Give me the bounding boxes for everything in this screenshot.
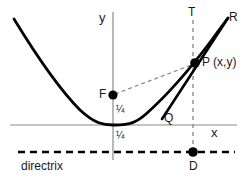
directrix-label: directrix — [21, 160, 63, 172]
x-axis-label: x — [211, 126, 218, 139]
parabola-diagram: y x T R P (x,y) F Q D ¼ ¼ directrix — [0, 0, 245, 185]
diagram-canvas — [0, 0, 245, 185]
point-P — [190, 58, 200, 68]
label-D: D — [189, 160, 198, 172]
label-F: F — [99, 88, 106, 100]
point-D — [188, 147, 198, 157]
focus-point-F — [108, 90, 117, 99]
label-P: P (x,y) — [202, 56, 236, 68]
label-T: T — [188, 6, 195, 18]
focal-distance-below-label: ¼ — [116, 131, 124, 141]
y-axis-label: y — [99, 11, 106, 24]
focal-distance-above-label: ¼ — [116, 105, 124, 115]
label-R: R — [229, 11, 238, 23]
label-Q: Q — [164, 112, 173, 124]
